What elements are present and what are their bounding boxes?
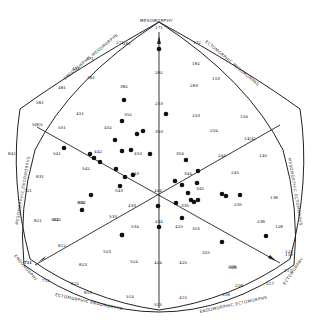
data-point: [189, 198, 194, 203]
somatotype-label: 354: [176, 151, 184, 156]
data-point: [131, 173, 136, 178]
somatotype-label: 425: [179, 260, 187, 265]
somatotype-label: 325: [202, 250, 210, 255]
data-point: [180, 216, 185, 221]
axis-label-bottom-left: ECTOMORPHIC ENDOMORPHS: [55, 292, 123, 311]
somatotype-label: 433: [128, 203, 136, 208]
chart-outline: [16, 22, 304, 310]
somatotype-label: 452: [104, 125, 112, 130]
somatotype-label: 136: [270, 195, 278, 200]
somatotype-label: 353: [155, 129, 163, 134]
somatotype-label: 236: [257, 219, 265, 224]
somatotype-label: 461: [58, 85, 66, 90]
somatotype-label: 641: [8, 151, 16, 156]
somatotype-label: 541: [53, 151, 61, 156]
somatotype-label: 253: [155, 101, 163, 106]
somatotype-label: 262: [155, 70, 163, 75]
somatotype-label: 711: [24, 260, 32, 265]
data-point: [180, 183, 185, 188]
somatotype-label: 162: [192, 61, 200, 66]
somatotype-label: 415: [179, 295, 187, 300]
somatotype-label: 425: [175, 224, 183, 229]
somatotype-label: 14(4): [244, 136, 256, 141]
data-point: [184, 158, 189, 163]
somatotype-label: 217: [266, 281, 274, 286]
data-point: [88, 152, 93, 157]
data-point: [129, 148, 134, 153]
somatotype-label: 551: [58, 125, 66, 130]
somatotype-label: 514: [126, 294, 134, 299]
somatotype-label: 622: [71, 281, 79, 286]
somatotype-label: 254: [210, 128, 218, 133]
somatotype-label: 326: [229, 265, 237, 270]
somatotype-label: 453: [134, 151, 142, 156]
somatotype-label: 371: [86, 56, 94, 61]
data-point: [120, 233, 125, 238]
data-point: [156, 204, 161, 209]
somatotype-label: 316: [222, 292, 230, 297]
somatotype-label: 153: [212, 76, 220, 81]
somatotype-label: 613: [84, 290, 92, 295]
data-point: [148, 152, 153, 157]
somatotype-label: 534: [131, 224, 139, 229]
arrow-icon: [157, 36, 161, 44]
somatotype-label: 561: [36, 100, 44, 105]
somatotype-label: 325: [192, 226, 200, 231]
data-point: [157, 47, 162, 52]
data-point: [120, 149, 125, 154]
data-point: [122, 98, 127, 103]
somatotype-label: 721: [24, 188, 32, 193]
data-point: [224, 194, 229, 199]
somatotype-label: 621: [34, 218, 42, 223]
somatotype-label: 543: [115, 188, 123, 193]
somatotype-label: 712: [42, 278, 50, 283]
somatotype-label: 442: [94, 149, 102, 154]
somatotype-labels: 1712711723712612624713613621622631534615…: [8, 25, 293, 307]
somatotype-label: 344: [184, 171, 192, 176]
data-point: [196, 169, 201, 174]
somatotype-label: 362: [120, 84, 128, 89]
somatotype-label: 424: [154, 260, 162, 265]
data-point: [173, 179, 178, 184]
data-point: [238, 193, 243, 198]
data-point: [113, 138, 118, 143]
data-point: [118, 184, 123, 189]
somatotype-label: 524: [130, 259, 138, 264]
somatotype-label: 612: [58, 243, 66, 248]
somatotype-label: 434: [155, 219, 163, 224]
somatotype-label: 244: [218, 153, 226, 158]
axis-label-right: MESOMORPHIC ECTOMORPHS: [287, 157, 304, 226]
somatotype-label: 542: [82, 166, 90, 171]
somatotype-label: 117: [284, 268, 292, 273]
somatotype-label: 126: [275, 224, 283, 229]
somatotype-label: 533: [109, 214, 117, 219]
somatotype-label: 261: [123, 41, 131, 46]
somatotype-label: 245: [231, 170, 239, 175]
data-point: [220, 192, 225, 197]
somatotype-label: 623: [79, 262, 87, 267]
data-point: [114, 167, 119, 172]
data-point: [141, 129, 146, 134]
data-point: [220, 240, 225, 245]
data-point: [195, 181, 200, 186]
somatotype-label: 5(6)1: [32, 122, 44, 127]
somatotype-label: 361: [87, 75, 95, 80]
somatotype-label: 116: [285, 252, 293, 257]
data-point: [62, 146, 67, 151]
somatotype-label: 345: [196, 186, 204, 191]
somatotype-label: 253: [192, 113, 200, 118]
data-point: [264, 234, 269, 239]
somatotype-label: 235: [234, 202, 242, 207]
somatotype-label: 631: [36, 174, 44, 179]
axis-label-top: MESOMORPHY: [140, 18, 173, 23]
somatotype-label: 263: [190, 83, 198, 88]
somatotype-label: 532: [77, 200, 85, 205]
somatotype-label: 352: [124, 112, 132, 117]
data-point: [186, 191, 191, 196]
data-point: [164, 112, 169, 117]
data-point: [92, 156, 97, 161]
somatotype-label: 216: [235, 283, 243, 288]
somatotype-label: 171: [155, 25, 163, 30]
somatotype-label: 471: [72, 66, 80, 71]
somatotype-label: 154: [240, 114, 248, 119]
